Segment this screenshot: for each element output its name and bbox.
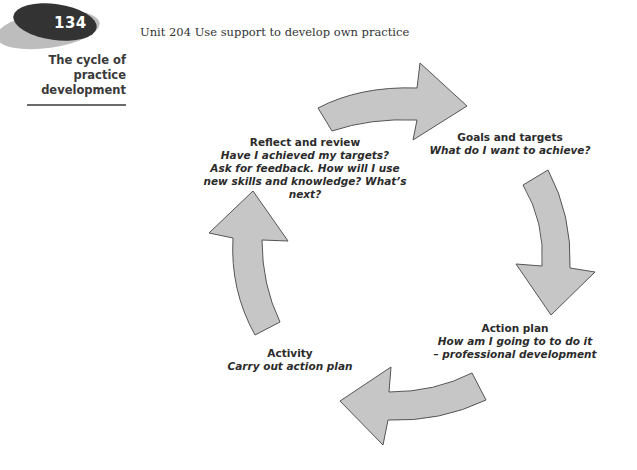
cycle-diagram xyxy=(0,0,637,470)
stage-title: Reflect and review xyxy=(190,136,420,149)
stage-description: How am I going to to do it xyxy=(420,335,610,348)
stage-action-plan: Action plan How am I going to to do it –… xyxy=(420,322,610,361)
stage-description: What do I want to achieve? xyxy=(420,144,600,157)
stage-description: Ask for feedback. How will I use xyxy=(190,162,420,175)
stage-title: Activity xyxy=(215,347,365,360)
stage-description: Carry out action plan xyxy=(215,360,365,373)
stage-goals-and-targets: Goals and targets What do I want to achi… xyxy=(420,131,600,157)
stage-title: Action plan xyxy=(420,322,610,335)
arrow-down-icon xyxy=(516,170,595,315)
stage-description: Have I achieved my targets? xyxy=(190,149,420,162)
arrow-right-icon xyxy=(318,63,467,140)
stage-activity: Activity Carry out action plan xyxy=(215,347,365,373)
arrow-left-icon xyxy=(340,367,486,445)
stage-description: new skills and knowledge? What’s next? xyxy=(190,175,420,201)
stage-description: – professional development xyxy=(420,348,610,361)
stage-reflect-and-review: Reflect and review Have I achieved my ta… xyxy=(190,136,420,201)
arrow-up-icon xyxy=(209,191,288,335)
stage-title: Goals and targets xyxy=(420,131,600,144)
